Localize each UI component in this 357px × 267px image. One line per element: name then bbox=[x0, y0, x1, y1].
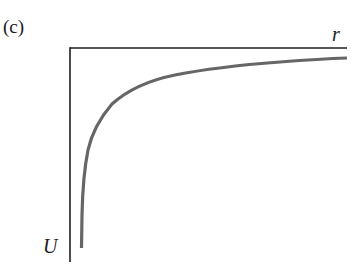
panel-label: (c) bbox=[3, 16, 24, 38]
potential-energy-curve bbox=[82, 58, 348, 248]
x-axis-label: r bbox=[332, 23, 340, 45]
y-axis-label: U bbox=[43, 235, 59, 257]
energy-diagram: (c) r U bbox=[0, 0, 357, 267]
